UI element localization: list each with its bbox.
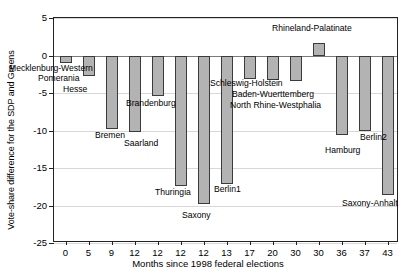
y-axis-tick	[49, 131, 54, 132]
y-axis-tick-label: 0	[7, 51, 47, 61]
x-axis-title: Months since 1998 federal elections	[0, 258, 416, 269]
y-axis-tick	[49, 18, 54, 19]
bar-annotation-label: Bremen	[95, 131, 125, 140]
x-axis-tick	[342, 241, 343, 245]
bar-annotation-label: Saxony-Anhalt	[342, 199, 398, 208]
bar-annotation-label: Pomerania	[38, 74, 80, 83]
x-axis-tick	[319, 241, 320, 245]
x-axis-tick	[135, 241, 136, 245]
x-axis-tick	[66, 241, 67, 245]
x-axis-tick	[112, 241, 113, 245]
bar[interactable]	[198, 56, 210, 205]
y-axis-tick-label: 5	[7, 13, 47, 23]
bar[interactable]	[106, 56, 118, 130]
y-axis-tick-label: -15	[7, 163, 47, 173]
x-axis-tick	[204, 241, 205, 245]
x-axis-tick-label: 43	[373, 248, 403, 258]
gridline	[54, 243, 397, 244]
bar[interactable]	[382, 56, 394, 196]
bar[interactable]	[244, 56, 256, 79]
x-axis-tick	[388, 241, 389, 245]
bar-annotation-label: Berlin1	[214, 185, 241, 194]
x-axis-tick	[227, 241, 228, 245]
y-axis-tick	[49, 56, 54, 57]
y-axis-tick-label: -10	[7, 126, 47, 136]
bar-annotation-label: Rhineland-Palatinate	[272, 24, 352, 33]
bar-annotation-label: Thuringia	[155, 188, 191, 197]
bar[interactable]	[290, 56, 302, 82]
bar-annotation-label: Berlin2	[360, 133, 387, 142]
bar[interactable]	[60, 56, 72, 64]
x-axis-tick	[296, 241, 297, 245]
y-axis-tick	[49, 206, 54, 207]
bar[interactable]	[129, 56, 141, 133]
bar-annotation-label: Saarland	[124, 139, 158, 148]
bar-annotation-label: Saxony	[182, 211, 211, 220]
bar[interactable]	[359, 56, 371, 132]
bar-annotation-label: Brandenburg	[126, 99, 176, 108]
y-axis-tick	[49, 243, 54, 244]
bar-annotation-label: Hamburg	[325, 146, 360, 155]
x-axis-tick	[273, 241, 274, 245]
bar-annotation-label: Baden-Wuerttemberg	[232, 90, 314, 99]
y-axis-tick-label: -20	[7, 201, 47, 211]
bar-annotation-label: Schleswig-Holstein	[210, 79, 283, 88]
y-axis-tick	[49, 93, 54, 94]
bar[interactable]	[221, 56, 233, 184]
y-axis-tick-label: -5	[7, 88, 47, 98]
bar-annotation-label: Mecklenburg-Western	[9, 64, 93, 73]
y-axis-tick	[49, 168, 54, 169]
bar[interactable]	[152, 56, 164, 97]
bar[interactable]	[175, 56, 187, 187]
x-axis-tick	[181, 241, 182, 245]
bar[interactable]	[313, 43, 325, 56]
chart-figure: Vote-share difference for the SDP and Gr…	[0, 0, 416, 280]
bar[interactable]	[267, 56, 279, 81]
y-axis-tick-label: -25	[7, 238, 47, 248]
x-axis-tick	[250, 241, 251, 245]
x-axis-tick	[365, 241, 366, 245]
x-axis-tick	[158, 241, 159, 245]
x-axis-tick	[89, 241, 90, 245]
bar-annotation-label: North Rhine-Westphalia	[230, 101, 321, 110]
bar[interactable]	[336, 56, 348, 136]
bar-annotation-label: Hesse	[63, 85, 87, 94]
gridline	[54, 18, 397, 19]
